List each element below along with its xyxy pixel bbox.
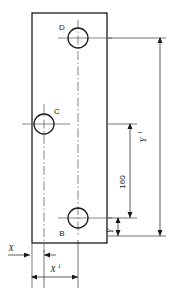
hole-label-b: B — [59, 229, 64, 238]
dimension-label-x1-superscript: 1 — [58, 263, 61, 269]
dimension-label-y1: Y — [138, 137, 148, 143]
dimension-label-x: X — [7, 243, 14, 253]
plate-outline-group — [32, 13, 107, 243]
centerlines-group — [44, 20, 78, 255]
dimension-160-group: 160 — [118, 124, 130, 218]
dimension-label-160: 160 — [118, 175, 127, 189]
plate-outline — [32, 13, 107, 243]
holes-group — [34, 28, 88, 228]
dimension-label-x1: X — [49, 264, 56, 274]
dimension-x1-group: X 1 — [32, 255, 78, 277]
dimension-x-group: X — [7, 243, 30, 255]
hole-label-c: C — [54, 107, 60, 116]
dimension-label-y1-group: Y 1 — [137, 131, 148, 143]
dimension-label-160-group: 160 — [118, 175, 127, 189]
hole-label-d: D — [59, 23, 65, 32]
extension-lines-group — [108, 38, 166, 236]
dimension-y1-group: Y 1 — [137, 38, 160, 236]
dimension-label-y1-superscript: 1 — [137, 131, 143, 134]
drawing-svg: D C B Y 1 160 — [0, 0, 180, 302]
technical-drawing-canvas: D C B Y 1 160 — [0, 0, 180, 302]
